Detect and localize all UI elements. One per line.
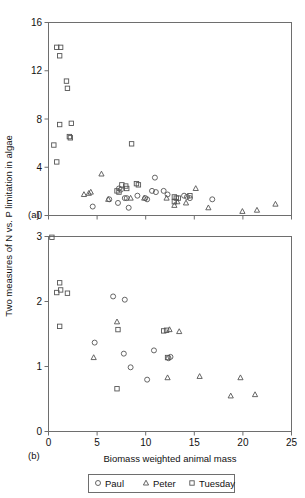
series-paul bbox=[92, 294, 173, 382]
y-axis-title: Two measures of N vs. P limitation in al… bbox=[3, 135, 14, 316]
series-tuesday bbox=[52, 45, 192, 204]
data-point-circle bbox=[122, 297, 127, 302]
x-tick-label: 5 bbox=[94, 437, 100, 448]
data-point-square bbox=[65, 86, 69, 90]
data-point-square bbox=[190, 481, 194, 485]
data-point-circle bbox=[111, 294, 116, 299]
data-point-triangle bbox=[143, 480, 148, 485]
data-point-triangle bbox=[228, 393, 233, 398]
data-point-square bbox=[57, 122, 61, 126]
y-tick-label: 3 bbox=[36, 231, 42, 242]
legend-label: Tuesday bbox=[199, 478, 235, 489]
data-point-triangle bbox=[193, 186, 198, 191]
data-point-circle bbox=[182, 193, 187, 198]
x-tick-label: 10 bbox=[140, 437, 152, 448]
data-point-triangle bbox=[252, 392, 257, 397]
x-tick-label: 0 bbox=[46, 437, 52, 448]
panel-a-label: (a) bbox=[28, 209, 40, 220]
data-point-triangle bbox=[167, 327, 172, 332]
data-point-square bbox=[69, 121, 73, 125]
data-point-triangle bbox=[240, 209, 245, 214]
data-point-circle bbox=[92, 340, 97, 345]
data-point-triangle bbox=[197, 374, 202, 379]
legend-label: Peter bbox=[153, 478, 176, 489]
plot-frame bbox=[49, 237, 292, 432]
data-point-square bbox=[52, 143, 56, 147]
y-axis-a: 0481216 bbox=[31, 17, 49, 221]
x-tick-label: 25 bbox=[286, 437, 298, 448]
data-point-circle bbox=[128, 365, 133, 370]
x-tick-label: 20 bbox=[237, 437, 249, 448]
data-point-triangle bbox=[273, 201, 278, 206]
data-point-triangle bbox=[238, 375, 243, 380]
series-paul bbox=[90, 175, 215, 210]
data-point-circle bbox=[115, 200, 120, 205]
data-point-triangle bbox=[177, 329, 182, 334]
y-tick-label: 12 bbox=[31, 65, 43, 76]
data-point-square bbox=[65, 291, 69, 295]
data-point-square bbox=[57, 281, 61, 285]
data-point-triangle bbox=[91, 355, 96, 360]
scatter-figure: 048121601230510152025(a)(b)Biomass weigh… bbox=[0, 0, 305, 498]
panel-b-label: (b) bbox=[28, 450, 40, 461]
legend-entry-peter[interactable]: Peter bbox=[143, 478, 175, 489]
y-tick-label: 1 bbox=[36, 361, 42, 372]
data-point-square bbox=[115, 387, 119, 391]
data-point-square bbox=[129, 142, 133, 146]
data-point-square bbox=[50, 235, 54, 239]
data-point-circle bbox=[145, 377, 150, 382]
x-tick-label: 15 bbox=[189, 437, 201, 448]
y-tick-label: 4 bbox=[36, 162, 42, 173]
x-axis-a bbox=[49, 216, 292, 220]
legend: PaulPeterTuesday bbox=[89, 475, 236, 493]
data-point-triangle bbox=[164, 195, 169, 200]
data-point-triangle bbox=[99, 171, 104, 176]
legend-label: Paul bbox=[105, 478, 124, 489]
y-tick-label: 8 bbox=[36, 114, 42, 125]
y-tick-label: 2 bbox=[36, 296, 42, 307]
data-point-circle bbox=[96, 481, 101, 486]
x-axis-b: 0510152025 bbox=[46, 432, 298, 449]
plot-frame bbox=[49, 23, 292, 216]
data-point-triangle bbox=[206, 205, 211, 210]
series-peter bbox=[81, 171, 278, 213]
data-point-square bbox=[64, 79, 68, 83]
data-point-square bbox=[57, 324, 61, 328]
data-point-triangle bbox=[183, 200, 188, 205]
data-point-triangle bbox=[81, 192, 86, 197]
legend-entry-paul[interactable]: Paul bbox=[96, 478, 125, 489]
panel-b: 01230510152025 bbox=[36, 231, 297, 448]
y-axis-b: 0123 bbox=[36, 231, 48, 437]
figure-container: 048121601230510152025(a)(b)Biomass weigh… bbox=[0, 0, 305, 498]
data-point-circle bbox=[135, 193, 140, 198]
data-point-triangle bbox=[165, 375, 170, 380]
data-point-circle bbox=[90, 204, 95, 209]
data-point-circle bbox=[152, 175, 157, 180]
data-point-square bbox=[55, 160, 59, 164]
series-tuesday bbox=[50, 235, 170, 391]
data-point-circle bbox=[210, 197, 215, 202]
data-point-square bbox=[57, 54, 61, 58]
data-point-circle bbox=[126, 205, 131, 210]
data-point-triangle bbox=[254, 207, 259, 212]
data-point-square bbox=[116, 327, 120, 331]
data-point-circle bbox=[121, 351, 126, 356]
data-point-circle bbox=[151, 348, 156, 353]
x-axis-title: Biomass weighted animal mass bbox=[103, 453, 236, 464]
legend-entry-tuesday[interactable]: Tuesday bbox=[190, 478, 236, 489]
panel-a: 0481216 bbox=[31, 17, 292, 221]
y-tick-label: 16 bbox=[31, 17, 43, 28]
data-point-triangle bbox=[114, 319, 119, 324]
data-point-circle bbox=[185, 194, 190, 199]
y-tick-label: 0 bbox=[36, 426, 42, 437]
